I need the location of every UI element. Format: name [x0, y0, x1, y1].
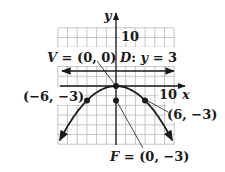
vertex-label-value: = (0, 0): [57, 50, 116, 65]
y-tick-label: 10: [121, 29, 139, 44]
parabola-diagram: y x 10 10 V = (0, 0) D: y = 3 (−6, −3) (…: [0, 0, 225, 172]
right-point: [142, 98, 148, 104]
x-tick-label: 10: [159, 87, 177, 102]
right-point-label: (6, −3): [167, 107, 217, 122]
left-point-label: (−6, −3): [23, 89, 84, 104]
left-point: [84, 98, 90, 104]
y-axis-label: y: [103, 8, 113, 23]
focus-leader-line: [116, 100, 143, 148]
x-axis-label: x: [181, 87, 190, 102]
focus-point: [113, 98, 119, 104]
vertex-point: [113, 83, 119, 89]
vertex-label: V = (0, 0): [47, 50, 116, 65]
directrix-label: D: y = 3: [119, 50, 177, 65]
focus-label: F = (0, −3): [109, 149, 190, 164]
